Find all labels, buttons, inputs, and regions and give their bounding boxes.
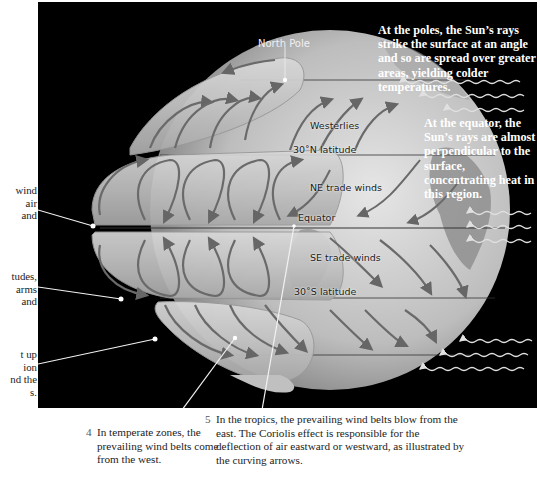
caption-4: 4 In temperate zones, the prevailing win…	[97, 426, 222, 467]
westerlies-label: Westerlies	[310, 120, 359, 131]
se-trade-winds-label: SE trade winds	[310, 252, 381, 263]
poles-callout: At the poles, the Sun’s rays strike the …	[378, 23, 537, 94]
equator-label: Equator	[298, 212, 335, 223]
diagram-frame: North Pole Westerlies 30˚N latitude NE t…	[38, 2, 537, 408]
left-callout-1: wind air and	[15, 184, 37, 222]
north-pole-label: North Pole	[258, 38, 310, 49]
left-callout-2: tudes, arms and	[12, 270, 38, 308]
caption-5: 5 In the tropics, the prevailing wind be…	[216, 413, 466, 467]
caption-number: 5	[205, 413, 211, 427]
caption-number: 4	[86, 426, 92, 440]
caption-text: In temperate zones, the prevailing wind …	[97, 426, 218, 465]
lat-30s-label: 30˚S latitude	[294, 286, 356, 297]
lat-30n-label: 30˚N latitude	[293, 144, 356, 155]
caption-text: In the tropics, the prevailing wind belt…	[216, 413, 464, 466]
equator-callout: At the equator, the Sun’s rays are almos…	[424, 116, 537, 201]
ne-trade-winds-label: NE trade winds	[310, 182, 382, 193]
left-callout-3: t up ion nd the s.	[10, 348, 37, 398]
